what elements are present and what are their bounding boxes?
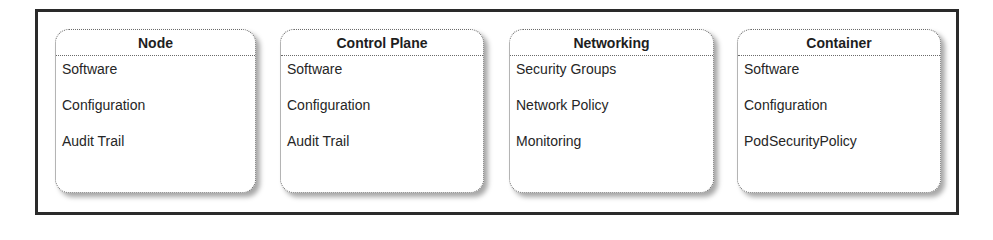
container-item-pod-security-policy: PodSecurityPolicy — [738, 128, 940, 164]
networking-box: Networking Security Groups Network Polic… — [509, 29, 714, 193]
control-plane-item-configuration: Configuration — [281, 92, 483, 128]
networking-item-security-groups: Security Groups — [510, 56, 713, 92]
control-plane-box-title: Control Plane — [281, 30, 483, 56]
node-box-title: Node — [56, 30, 255, 56]
control-plane-box: Control Plane Software Configuration Aud… — [280, 29, 484, 193]
node-item-software: Software — [56, 56, 255, 92]
networking-item-network-policy: Network Policy — [510, 92, 713, 128]
container-box: Container Software Configuration PodSecu… — [737, 29, 941, 193]
node-box-items: Software Configuration Audit Trail — [56, 56, 255, 164]
container-item-configuration: Configuration — [738, 92, 940, 128]
container-box-items: Software Configuration PodSecurityPolicy — [738, 56, 940, 164]
container-item-software: Software — [738, 56, 940, 92]
networking-box-title: Networking — [510, 30, 713, 56]
networking-box-items: Security Groups Network Policy Monitorin… — [510, 56, 713, 164]
networking-item-monitoring: Monitoring — [510, 128, 713, 164]
node-item-configuration: Configuration — [56, 92, 255, 128]
node-item-audit-trail: Audit Trail — [56, 128, 255, 164]
control-plane-item-audit-trail: Audit Trail — [281, 128, 483, 164]
container-box-title: Container — [738, 30, 940, 56]
node-box: Node Software Configuration Audit Trail — [55, 29, 256, 193]
control-plane-box-items: Software Configuration Audit Trail — [281, 56, 483, 164]
control-plane-item-software: Software — [281, 56, 483, 92]
